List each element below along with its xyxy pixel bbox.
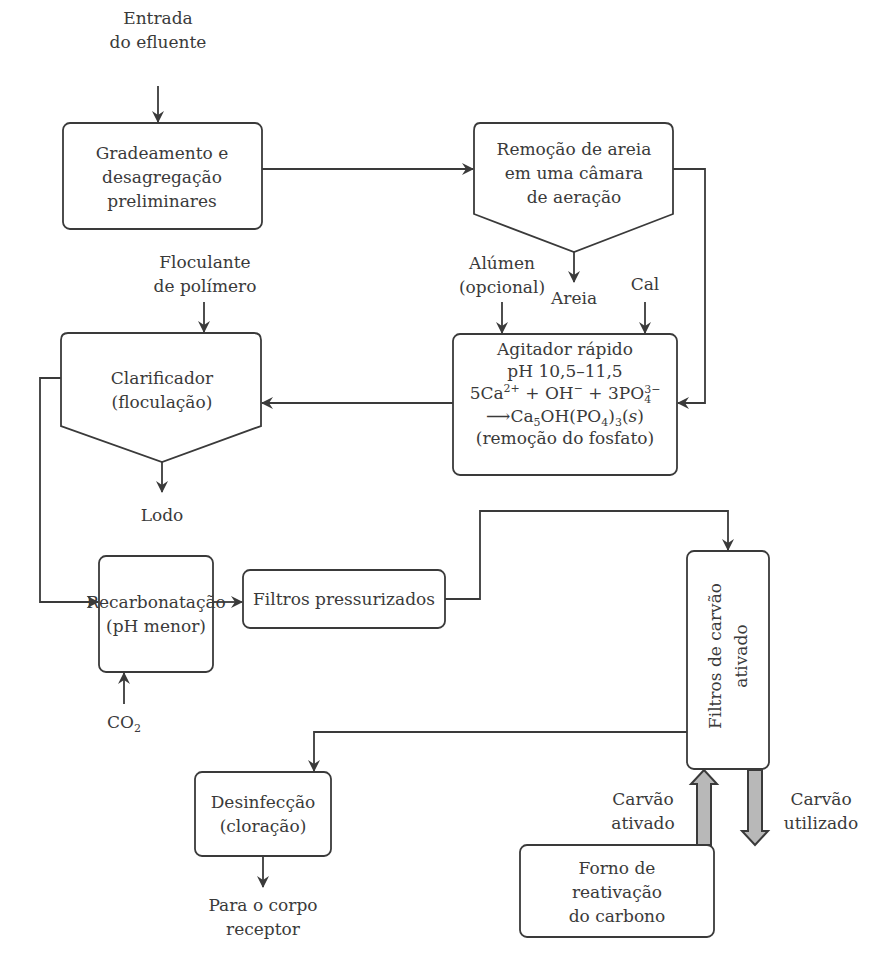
thick-arrow-carvao-utilizado — [742, 770, 768, 845]
arrow-clarificador-to-recarb — [40, 378, 98, 602]
label-cal: Cal — [631, 272, 660, 296]
node-clarificador-label: Clarificador (floculação) — [111, 366, 213, 414]
node-recarbonatacao-label: Recarbonatação (pH menor) — [86, 590, 226, 638]
node-gradeamento-label: Gradeamento e desagregação preliminares — [96, 141, 229, 213]
node-forno-label: Forno de reativação do carbono — [569, 856, 666, 928]
arrow-carvao-to-desinfeccao — [314, 732, 687, 771]
node-agitador-label: Agitador rápido pH 10,5–11,5 5Ca2+ + OH−… — [470, 338, 661, 449]
node-remocao-areia-label: Remoção de areia em uma câmara de aeraçã… — [497, 137, 652, 209]
arrow-filtros-to-carvao — [445, 511, 728, 599]
equation-reactants: 5Ca2+ + OH− + 3PO3−4 — [470, 382, 661, 405]
label-entrada: Entrada do efluente — [110, 6, 207, 54]
label-carvao-ativado: Carvão ativado — [611, 787, 674, 835]
flowchart-canvas: Entrada do efluente Floculante de políme… — [0, 0, 882, 974]
node-filtros-pressurizados-label: Filtros pressurizados — [253, 587, 435, 611]
label-areia: Areia — [551, 286, 597, 310]
node-desinfeccao-label: Desinfecção (cloração) — [211, 790, 316, 838]
label-co2: CO2 — [107, 710, 141, 734]
label-carvao-utilizado: Carvão utilizado — [784, 787, 858, 835]
label-corpo-receptor: Para o corpo receptor — [208, 893, 317, 941]
label-floculante: Floculante de polímero — [154, 250, 257, 298]
thick-arrow-carvao-ativado — [691, 770, 717, 845]
equation-product: ⟶Ca5OH(PO4)3(s) — [470, 405, 661, 427]
node-filtros-carvao-label: Filtros de carvão ativado — [702, 583, 754, 729]
label-alumen: Alúmen (opcional) — [459, 251, 545, 299]
label-lodo: Lodo — [141, 503, 184, 527]
